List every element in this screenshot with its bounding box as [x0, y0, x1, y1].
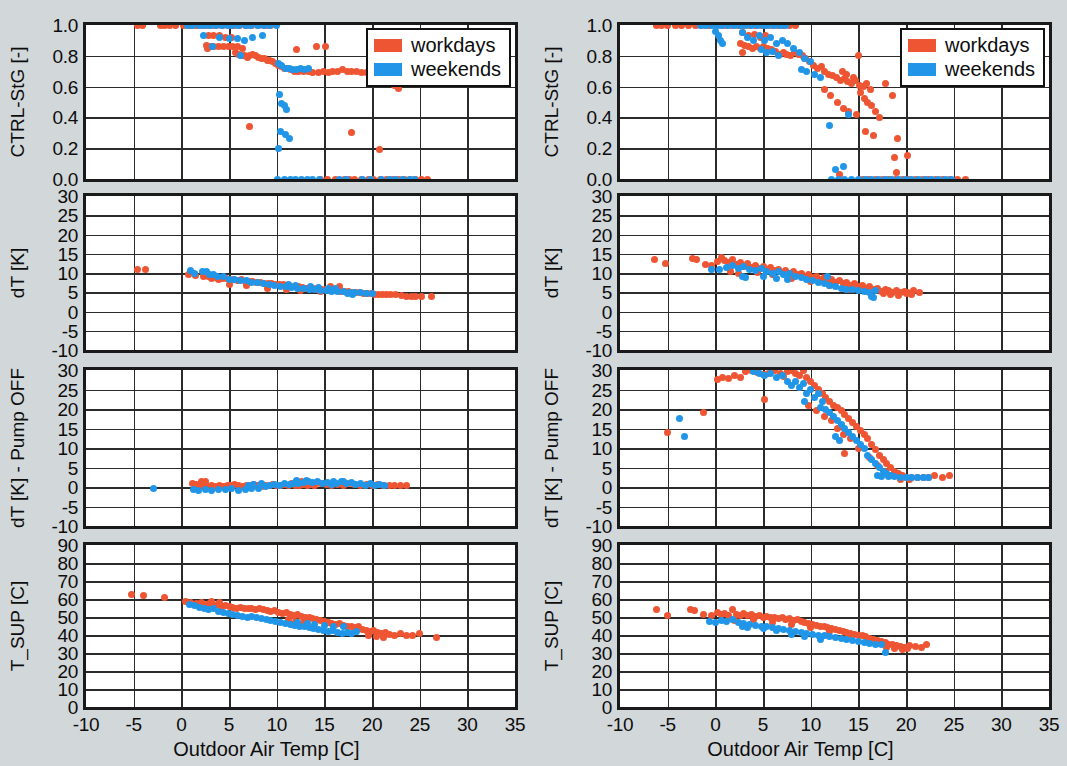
y-tick-label: 1.0: [52, 16, 78, 35]
gridline-horizontal: [86, 409, 515, 411]
y-tick-label: 5: [602, 458, 612, 477]
gridline-vertical: [858, 545, 860, 707]
data-point-workdays: [891, 154, 898, 161]
y-tick-label: 60: [591, 590, 612, 609]
data-point-weekends: [399, 176, 406, 183]
gridline-horizontal: [86, 507, 515, 509]
gridline-horizontal: [86, 468, 515, 470]
legend-item-workdays[interactable]: workdays: [908, 33, 1035, 57]
data-point-weekends: [855, 176, 862, 183]
x-tick-label: -10: [73, 714, 100, 736]
y-tick-label: 90: [57, 536, 78, 555]
subplot-right-1: 0.00.20.40.60.81.0CTRL-StG [-]workdayswe…: [534, 22, 1067, 182]
data-point-weekends: [836, 437, 843, 444]
subplot-right-2: -10-5051015202530dT [K]: [534, 193, 1067, 353]
gridline-horizontal: [86, 312, 515, 314]
x-tick-label: 15: [314, 714, 335, 736]
data-point-weekends: [191, 270, 198, 277]
data-point-workdays: [887, 291, 894, 298]
gridline-horizontal: [86, 215, 515, 217]
y-tick-label: 0: [68, 478, 78, 497]
data-point-weekends: [744, 624, 751, 631]
legend-item-workdays[interactable]: workdays: [374, 33, 501, 57]
gridline-vertical: [229, 545, 231, 707]
data-point-workdays: [139, 22, 146, 29]
y-tick-label: 0.8: [52, 46, 78, 65]
data-point-weekends: [935, 176, 942, 183]
data-point-weekends: [330, 478, 337, 485]
legend-item-weekends[interactable]: weekends: [374, 57, 501, 81]
gridline-horizontal: [86, 148, 515, 150]
data-point-weekends: [840, 163, 847, 170]
data-point-workdays: [867, 86, 874, 93]
data-point-weekends: [241, 37, 248, 44]
data-point-workdays: [739, 49, 746, 56]
y-tick-label: 0.6: [586, 77, 612, 96]
y-tick-label: 90: [591, 536, 612, 555]
data-point-weekends: [276, 91, 283, 98]
gridline-horizontal: [620, 390, 1049, 392]
data-point-workdays: [403, 482, 410, 489]
x-tick-label: 10: [266, 714, 287, 736]
gridline-vertical: [467, 545, 469, 707]
x-tick-label: 35: [505, 714, 526, 736]
legend-label: workdays: [945, 35, 1029, 55]
gridline-vertical: [858, 25, 860, 179]
subplot-right-4: 0102030405060708090T_SUP [C]-10-50510152…: [534, 542, 1067, 710]
data-point-workdays: [376, 146, 383, 153]
data-point-weekends: [870, 294, 877, 301]
gridline-horizontal: [620, 235, 1049, 237]
x-tick-label: 0: [710, 714, 720, 736]
data-point-weekends: [948, 176, 955, 183]
data-point-workdays: [161, 594, 168, 601]
legend: workdaysweekends: [900, 28, 1045, 87]
gridline-horizontal: [86, 331, 515, 333]
data-point-weekends: [817, 404, 824, 411]
gridline-vertical: [181, 545, 183, 707]
data-point-workdays: [664, 429, 671, 436]
gridline-horizontal: [86, 117, 515, 119]
data-point-weekends: [878, 473, 885, 480]
legend-swatch-weekends: [374, 63, 402, 76]
data-point-workdays: [761, 396, 768, 403]
data-point-weekends: [767, 34, 774, 41]
x-tick-label: 0: [176, 714, 186, 736]
legend-swatch-weekends: [908, 63, 936, 76]
data-point-weekends: [915, 176, 922, 183]
data-point-weekends: [788, 631, 795, 638]
plot-area: [83, 542, 518, 710]
y-tick-label: 10: [57, 439, 78, 458]
x-tick-label: 30: [457, 714, 478, 736]
data-point-weekends: [800, 380, 807, 387]
subplot-left-4: 0102030405060708090T_SUP [C]-10-50510152…: [0, 542, 533, 710]
data-point-weekends: [775, 52, 782, 59]
y-tick-label: 50: [591, 608, 612, 627]
gridline-horizontal: [620, 507, 1049, 509]
data-point-workdays: [246, 123, 253, 130]
gridline-horizontal: [86, 273, 515, 275]
data-point-weekends: [875, 176, 882, 183]
legend-item-weekends[interactable]: weekends: [908, 57, 1035, 81]
y-tick-label: 10: [57, 264, 78, 283]
y-axis-label: dT [K]: [7, 193, 29, 353]
x-tick-label: 10: [800, 714, 821, 736]
data-point-weekends: [305, 65, 312, 72]
data-point-workdays: [380, 634, 387, 641]
data-point-weekends: [803, 68, 810, 75]
data-point-workdays: [916, 289, 923, 296]
y-tick-label: 10: [591, 264, 612, 283]
legend: workdaysweekends: [366, 28, 511, 87]
gridline-horizontal: [86, 689, 515, 691]
y-tick-label: 10: [57, 680, 78, 699]
y-tick-label: 20: [591, 225, 612, 244]
gridline-horizontal: [86, 581, 515, 583]
x-tick-label: 35: [1039, 714, 1060, 736]
data-point-weekends: [283, 106, 290, 113]
data-point-workdays: [931, 472, 938, 479]
data-point-workdays: [293, 46, 300, 53]
y-tick-label: 40: [57, 626, 78, 645]
y-tick-label: 5: [68, 283, 78, 302]
gridline-horizontal: [620, 581, 1049, 583]
data-point-weekends: [275, 145, 282, 152]
data-point-workdays: [904, 645, 911, 652]
